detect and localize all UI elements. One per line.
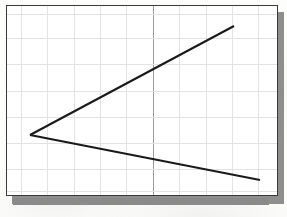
plot-area [7,6,278,196]
chart-drop-shadow-bar [13,198,269,205]
chart-plot-frame [6,5,278,196]
series-line-lower-branch [30,135,260,180]
series-line-upper-branch [30,26,234,135]
scanned-page [0,0,287,217]
